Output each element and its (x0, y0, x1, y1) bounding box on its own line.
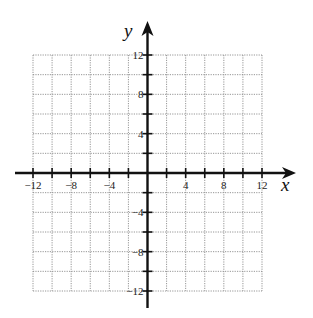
x-tick-label: −8 (65, 179, 77, 191)
x-tick-label: 12 (257, 179, 268, 191)
y-tick-label: 12 (133, 49, 144, 61)
y-tick-label: −8 (132, 246, 144, 258)
x-tick-label: −12 (24, 179, 41, 191)
axes (15, 21, 296, 308)
y-tick-label: −4 (132, 206, 144, 218)
x-tick-label: 8 (221, 179, 227, 191)
y-axis-label: y (122, 20, 133, 41)
x-axis-label: x (280, 174, 290, 195)
y-tick-label: 4 (138, 128, 144, 140)
y-tick-label: −12 (126, 285, 143, 297)
y-tick-label: 8 (138, 88, 144, 100)
coordinate-plane: −12−8−448121284−4−8−12 x y (0, 0, 313, 318)
x-tick-label: 4 (183, 179, 189, 191)
x-tick-label: −4 (103, 179, 115, 191)
